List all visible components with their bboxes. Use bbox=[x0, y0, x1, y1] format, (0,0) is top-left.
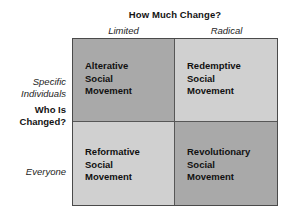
column-header-radical: Radical bbox=[175, 25, 278, 36]
matrix-cell-alterative-line3: Movement bbox=[85, 85, 174, 98]
matrix-cell-redemptive-line2: Social bbox=[187, 73, 277, 86]
matrix-grid: Alterative Social Movement Redemptive So… bbox=[72, 38, 278, 206]
row-axis-title-line1: Who Is bbox=[35, 104, 66, 115]
matrix-cell-reformative-line2: Social bbox=[85, 159, 174, 172]
matrix-cell-alterative-line1: Alterative bbox=[85, 60, 174, 73]
column-axis-title: How Much Change? bbox=[72, 9, 278, 20]
row-axis-title: Who Is Changed? bbox=[0, 104, 66, 127]
column-header-limited: Limited bbox=[72, 25, 175, 36]
matrix-cell-reformative: Reformative Social Movement bbox=[73, 122, 175, 205]
row-label-specific-individuals-line1: Specific bbox=[33, 76, 66, 87]
matrix-cell-revolutionary: Revolutionary Social Movement bbox=[175, 122, 277, 205]
matrix-cell-redemptive-line1: Redemptive bbox=[187, 60, 277, 73]
matrix-cell-revolutionary-line2: Social bbox=[187, 159, 277, 172]
matrix-cell-reformative-line3: Movement bbox=[85, 171, 174, 184]
row-label-specific-individuals-line2: Individuals bbox=[21, 88, 66, 99]
row-axis-title-line2: Changed? bbox=[20, 116, 66, 127]
social-movement-matrix-figure: How Much Change? Limited Radical Specifi… bbox=[0, 0, 298, 219]
matrix-cell-alterative-line2: Social bbox=[85, 73, 174, 86]
row-label-everyone-line1: Everyone bbox=[26, 166, 66, 177]
matrix-cell-redemptive-line3: Movement bbox=[187, 85, 277, 98]
matrix-cell-revolutionary-line1: Revolutionary bbox=[187, 146, 277, 159]
matrix-cell-redemptive: Redemptive Social Movement bbox=[175, 39, 277, 122]
matrix-cell-revolutionary-line3: Movement bbox=[187, 171, 277, 184]
row-label-specific-individuals: Specific Individuals bbox=[0, 76, 66, 99]
matrix-cell-reformative-line1: Reformative bbox=[85, 146, 174, 159]
row-label-everyone: Everyone bbox=[0, 166, 66, 178]
matrix-cell-alterative: Alterative Social Movement bbox=[73, 39, 175, 122]
